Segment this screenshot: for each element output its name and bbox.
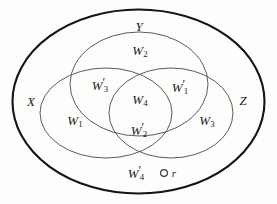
- region-label-w3-prime-base: W: [92, 78, 103, 93]
- region-label-w4-prime-sub: 4: [140, 172, 144, 182]
- region-label-w4-base: W: [132, 92, 143, 107]
- region-label-w3: W3: [199, 114, 214, 129]
- set-label-y: Y: [135, 20, 142, 33]
- region-label-w1-prime-sub: 1: [184, 86, 188, 96]
- point-r-marker: [161, 170, 168, 177]
- region-label-w2-base: W: [132, 43, 143, 58]
- region-label-w3-sub: 3: [210, 120, 214, 130]
- set-label-z: Z: [239, 94, 246, 107]
- region-label-w1-prime-base: W: [172, 80, 183, 95]
- region-label-w4: W4: [132, 93, 147, 108]
- region-label-w2-prime-base: W: [131, 123, 142, 138]
- region-label-w2-sub: 2: [143, 50, 147, 60]
- region-label-w1-base: W: [67, 113, 78, 128]
- region-label-w2: W2: [132, 44, 147, 59]
- region-label-w3-prime: W′3: [92, 76, 108, 94]
- region-label-w4-prime: W′4: [128, 164, 144, 182]
- region-label-w2-prime-sub: 2: [143, 129, 147, 139]
- set-label-x: X: [27, 95, 35, 108]
- region-label-w2-prime: W′2: [131, 121, 147, 139]
- point-label-r: r: [172, 168, 176, 179]
- region-label-w3-prime-sub: 3: [104, 84, 108, 94]
- venn-diagram-figure: Y X Z W2 W′3 W′1 W4 W1 W′2 W3 W′4 r: [0, 0, 277, 204]
- region-label-w1: W1: [67, 114, 82, 129]
- region-label-w4-sub: 4: [143, 99, 147, 109]
- region-label-w3-base: W: [199, 113, 210, 128]
- region-label-w4-prime-base: W: [128, 166, 139, 181]
- region-label-w1-prime: W′1: [172, 78, 188, 96]
- region-label-w1-sub: 1: [78, 120, 82, 130]
